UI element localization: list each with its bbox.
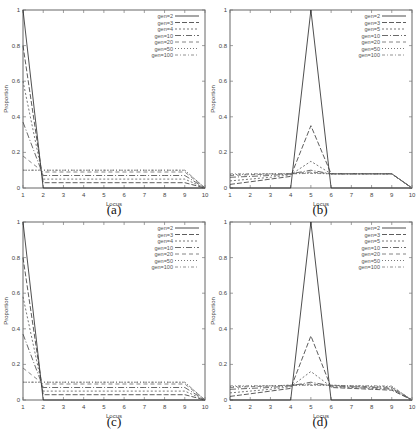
x-tick-label: 8 xyxy=(163,404,167,410)
line-chart-a: 1234567891000.20.40.60.81LocusProportion… xyxy=(0,0,210,200)
x-tick-label: 8 xyxy=(370,404,374,410)
series-line-gen-100 xyxy=(23,170,205,188)
y-tick-label: 0 xyxy=(224,185,228,191)
legend-label: gen=10 xyxy=(154,245,173,251)
legend-label: gen=100 xyxy=(151,52,173,58)
chart-panel-a: 1234567891000.20.40.60.81LocusProportion… xyxy=(0,0,210,220)
legend-label: gen=100 xyxy=(358,52,380,58)
series-line-gen-100 xyxy=(23,382,205,400)
legend-label: gen=20 xyxy=(154,251,173,257)
series-line-gen-50 xyxy=(23,170,205,188)
caption-c: (c) xyxy=(94,414,134,430)
y-axis-label: Proportion xyxy=(3,85,9,113)
x-tick-label: 2 xyxy=(42,404,46,410)
x-tick-label: 3 xyxy=(62,192,66,198)
legend-label: gen=20 xyxy=(361,251,380,257)
y-tick-label: 0 xyxy=(17,185,21,191)
x-tick-label: 3 xyxy=(269,404,273,410)
y-tick-label: 0.4 xyxy=(219,326,228,332)
line-chart-c: 1234567891000.20.40.60.81LocusProportion… xyxy=(0,212,210,412)
legend-label: gen=3 xyxy=(158,20,173,26)
y-tick-label: 0.6 xyxy=(12,290,21,296)
y-tick-label: 0.2 xyxy=(219,149,228,155)
plot-frame xyxy=(23,10,205,188)
series-line-gen-10 xyxy=(23,334,205,400)
y-axis-label: Proportion xyxy=(210,85,216,113)
legend-label: gen=2 xyxy=(158,13,173,19)
series-line-gen-20 xyxy=(230,384,412,400)
x-tick-label: 4 xyxy=(289,192,293,198)
series-line-gen-4 xyxy=(23,81,205,188)
x-tick-label: 5 xyxy=(309,404,313,410)
series-line-gen-2 xyxy=(230,10,412,188)
legend-label: gen=20 xyxy=(361,39,380,45)
y-tick-label: 0.8 xyxy=(12,255,21,261)
series-line-gen-3 xyxy=(23,46,205,188)
legend-label: gen=50 xyxy=(361,258,380,264)
chart-panel-c: 1234567891000.20.40.60.81LocusProportion… xyxy=(0,212,210,439)
series-line-gen-2 xyxy=(23,222,205,400)
y-axis-label: Proportion xyxy=(210,297,216,325)
series-line-gen-10 xyxy=(23,122,205,188)
y-tick-label: 0.4 xyxy=(12,114,21,120)
y-tick-label: 0.2 xyxy=(12,149,21,155)
x-tick-label: 6 xyxy=(122,192,126,198)
y-tick-label: 0.8 xyxy=(219,43,228,49)
x-tick-label: 6 xyxy=(329,192,333,198)
y-tick-label: 0.6 xyxy=(219,78,228,84)
legend-label: gen=2 xyxy=(365,225,380,231)
x-tick-label: 10 xyxy=(409,192,416,198)
legend-label: gen=3 xyxy=(365,232,380,238)
series-line-gen-20 xyxy=(230,172,412,188)
caption-d: (d) xyxy=(300,414,340,430)
series-line-gen-50 xyxy=(230,173,412,188)
series-line-gen-20 xyxy=(23,156,205,188)
y-tick-label: 0.4 xyxy=(219,114,228,120)
legend-label: gen=50 xyxy=(154,258,173,264)
x-tick-label: 9 xyxy=(183,404,187,410)
y-tick-label: 1 xyxy=(224,219,228,225)
legend-label: gen=2 xyxy=(365,13,380,19)
legend-label: gen=4 xyxy=(158,238,173,244)
x-tick-label: 9 xyxy=(183,192,187,198)
x-tick-label: 2 xyxy=(249,404,253,410)
x-tick-label: 7 xyxy=(350,192,354,198)
legend-label: gen=20 xyxy=(154,39,173,45)
x-tick-label: 8 xyxy=(370,192,374,198)
y-tick-label: 1 xyxy=(224,7,228,13)
legend-label: gen=4 xyxy=(158,26,173,32)
legend-label: gen=3 xyxy=(365,20,380,26)
y-tick-label: 0.8 xyxy=(219,255,228,261)
series-line-gen-3 xyxy=(230,126,412,188)
x-tick-label: 3 xyxy=(62,404,66,410)
y-tick-label: 1 xyxy=(17,7,21,13)
series-line-gen-50 xyxy=(23,382,205,400)
legend-label: gen=3 xyxy=(158,232,173,238)
x-tick-label: 4 xyxy=(82,192,86,198)
legend-label: gen=2 xyxy=(158,225,173,231)
y-tick-label: 0.4 xyxy=(12,326,21,332)
plot-frame xyxy=(23,222,205,400)
line-chart-b: 1234567891000.20.40.60.81LocusProportion… xyxy=(207,0,419,200)
series-line-gen-4 xyxy=(23,297,205,400)
x-tick-label: 5 xyxy=(102,192,106,198)
x-tick-label: 9 xyxy=(390,192,394,198)
y-tick-label: 0.6 xyxy=(219,290,228,296)
series-line-gen-100 xyxy=(230,173,412,188)
x-tick-label: 1 xyxy=(228,404,232,410)
legend-label: gen=50 xyxy=(154,46,173,52)
x-tick-label: 6 xyxy=(122,404,126,410)
series-line-gen-2 xyxy=(23,10,205,188)
y-tick-label: 0 xyxy=(17,397,21,403)
legend-label: gen=10 xyxy=(154,33,173,39)
legend-label: gen=100 xyxy=(151,264,173,270)
x-tick-label: 2 xyxy=(249,192,253,198)
legend-label: gen=10 xyxy=(361,245,380,251)
x-tick-label: 8 xyxy=(163,192,167,198)
series-line-gen-3 xyxy=(230,336,412,400)
series-line-gen-5 xyxy=(230,161,412,188)
x-tick-label: 4 xyxy=(289,404,293,410)
x-tick-label: 6 xyxy=(329,404,333,410)
x-tick-label: 1 xyxy=(228,192,232,198)
series-line-gen-3 xyxy=(23,258,205,400)
